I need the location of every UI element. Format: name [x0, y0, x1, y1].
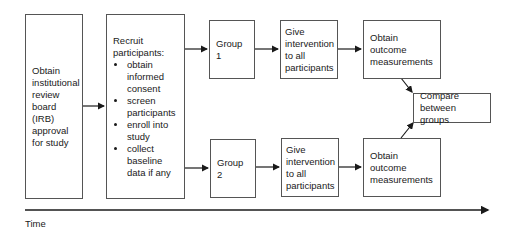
recruit-bullet-list: obtain informed consent screen participa… [113, 59, 178, 179]
outcome1-text: Obtain outcome measurements [370, 32, 434, 68]
arrow-outcome2-to-compare [401, 123, 413, 138]
group1-label: Group 1 [216, 38, 248, 62]
recruit-bullet: obtain informed consent [127, 59, 178, 95]
recruit-bullet: collect baseline data if any [127, 143, 178, 179]
group2-box: Group 2 [210, 139, 256, 198]
outcome2-text: Obtain outcome measurements [370, 150, 434, 186]
group1-box: Group 1 [209, 20, 255, 79]
arrow-outcome1-to-compare [401, 78, 412, 92]
recruit-bullet: enroll into study [127, 119, 178, 143]
group2-label: Group 2 [217, 157, 249, 181]
irb-approval-text: Obtain institutional review board (IRB) … [32, 65, 76, 149]
time-axis-label: Time [25, 218, 46, 229]
outcome2-box: Obtain outcome measurements [363, 138, 441, 197]
compare-groups-box: Compare between groups [413, 93, 491, 123]
intervention2-box: Give intervention to all participants [281, 138, 339, 197]
recruit-participants-box: Recruit participants: obtain informed co… [106, 14, 185, 199]
intervention1-box: Give intervention to all participants [280, 20, 338, 79]
intervention1-text: Give intervention to all participants [285, 26, 333, 74]
compare-groups-text: Compare between groups [420, 90, 484, 126]
outcome1-box: Obtain outcome measurements [363, 20, 441, 79]
irb-approval-box: Obtain institutional review board (IRB) … [25, 14, 83, 199]
recruit-bullet: screen participants [127, 95, 178, 119]
intervention2-text: Give intervention to all participants [286, 144, 334, 192]
recruit-title: Recruit participants: [113, 35, 178, 59]
